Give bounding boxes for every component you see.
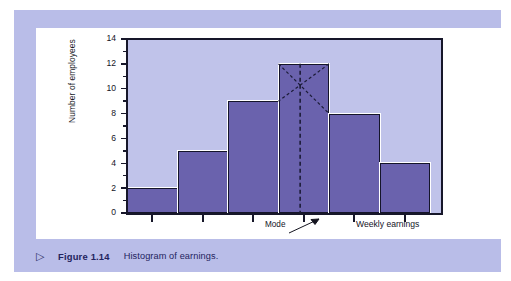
y-tick-label: 10 (94, 84, 116, 93)
x-axis-title: Weekly earnings (356, 219, 419, 229)
plot-right-border (441, 38, 443, 215)
caption-figure-number: Figure 1.14 (58, 251, 110, 262)
y-tick-label: 2 (94, 184, 116, 193)
plot-white-panel: Number of employees 02468101214 (36, 28, 507, 239)
x-tick-mark (303, 215, 305, 222)
figure-panel: Number of employees 02468101214 (14, 10, 501, 272)
histogram-bar (329, 114, 380, 213)
histogram-bar (178, 151, 229, 213)
y-tick-label: 6 (94, 134, 116, 143)
caption-marker-icon: ▷ (36, 251, 44, 262)
y-tick-label: 12 (94, 59, 116, 68)
plot-top-border (126, 38, 443, 40)
figure-page: Number of employees 02468101214 (0, 0, 511, 281)
histogram-bar (380, 163, 431, 213)
mode-annotation-label: Mode (265, 220, 285, 229)
y-axis-title: Number of employees (67, 21, 77, 141)
figure-caption: ▷ Figure 1.14 Histogram of earnings. (36, 246, 496, 266)
x-tick-mark (353, 215, 355, 222)
histogram-bar (279, 64, 330, 213)
y-tick-label: 0 (94, 208, 116, 217)
x-axis-line (126, 213, 443, 215)
histogram-chart: Number of employees 02468101214 (36, 28, 507, 239)
y-tick-label: 8 (94, 109, 116, 118)
x-tick-mark (151, 215, 153, 222)
x-tick-mark (252, 215, 254, 222)
y-axis-line (126, 38, 128, 215)
histogram-bar (127, 188, 178, 213)
histogram-bar (228, 101, 279, 213)
y-tick-label: 14 (94, 34, 116, 43)
caption-figure-text: Histogram of earnings. (124, 251, 219, 261)
y-tick-label: 4 (94, 159, 116, 168)
x-tick-mark (202, 215, 204, 222)
